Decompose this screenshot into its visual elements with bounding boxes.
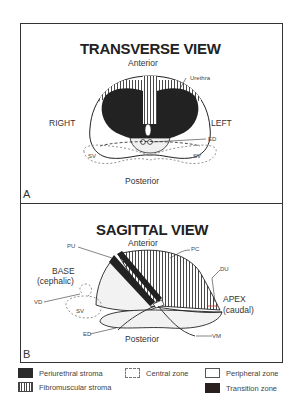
vm-callout: VM bbox=[212, 333, 221, 339]
legend-label: Peripheral zone bbox=[226, 369, 279, 378]
ed-callout-transverse: ED bbox=[208, 136, 216, 142]
legend-periurethral-stroma: Periurethral stroma bbox=[18, 368, 103, 378]
central-zone-swatch bbox=[125, 368, 140, 378]
transition-zone-swatch bbox=[205, 383, 220, 393]
legend-transition-zone: Transition zone bbox=[205, 383, 277, 393]
panel-a-letter: A bbox=[23, 188, 30, 200]
legend-label: Central zone bbox=[146, 369, 189, 378]
panel-b-letter: B bbox=[23, 348, 30, 360]
du-callout: DU bbox=[220, 266, 229, 272]
legend-fibromuscular-stroma: Fibromuscular stroma bbox=[18, 382, 112, 392]
base-label: BASE bbox=[52, 266, 75, 276]
transverse-gland bbox=[90, 76, 211, 158]
legend-peripheral-zone: Peripheral zone bbox=[205, 368, 279, 378]
vd-outline bbox=[80, 284, 92, 296]
sv-callout-sagittal: SV bbox=[76, 308, 84, 314]
ed-callout-sagittal: ED bbox=[83, 331, 91, 337]
legend-central-zone: Central zone bbox=[125, 368, 189, 378]
apex-label: APEX bbox=[223, 294, 246, 304]
vd-callout: VD bbox=[34, 299, 42, 305]
pu-callout: PU bbox=[67, 243, 75, 249]
periurethral-stroma-swatch bbox=[18, 368, 33, 378]
right-side-label: RIGHT bbox=[49, 118, 75, 128]
sagittal-view-title: SAGITTAL VIEW bbox=[96, 221, 208, 238]
sagittal-posterior-label: Posterior bbox=[125, 334, 159, 344]
apex-sub-label: (caudal) bbox=[223, 305, 254, 315]
urethra-callout: Urethra bbox=[190, 75, 210, 81]
legend-label: Transition zone bbox=[226, 384, 277, 393]
sagittal-gland bbox=[96, 250, 222, 336]
sagittal-anterior-label: Anterior bbox=[128, 238, 158, 248]
sv-callout-right: SV bbox=[88, 153, 96, 159]
peripheral-zone-swatch bbox=[205, 368, 220, 378]
transverse-view-title: TRANSVERSE VIEW bbox=[80, 40, 221, 57]
sv-callout-left: SV bbox=[193, 153, 201, 159]
legend-label: Periurethral stroma bbox=[39, 369, 103, 378]
legend-label: Fibromuscular stroma bbox=[39, 383, 112, 392]
left-side-label: LEFT bbox=[211, 118, 232, 128]
base-sub-label: (cephalic) bbox=[37, 276, 74, 286]
pc-callout: PC bbox=[191, 246, 199, 252]
transverse-anterior-label: Anterior bbox=[128, 58, 158, 68]
transverse-posterior-label: Posterior bbox=[125, 176, 159, 186]
fibromuscular-stroma-swatch bbox=[18, 382, 33, 392]
